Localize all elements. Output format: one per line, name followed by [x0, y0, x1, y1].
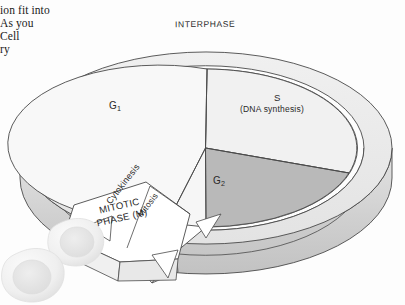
interphase-label: INTERPHASE [175, 19, 235, 29]
body-text-line-2: As you [0, 17, 34, 30]
body-text-line-3: Cell [0, 30, 20, 43]
g2-label-text: G [213, 175, 221, 186]
divider-g2-m [206, 148, 207, 227]
g1-label-text: G [109, 100, 117, 111]
s-phase-label: S [274, 92, 281, 103]
cell-cycle-svg [0, 0, 405, 305]
s-phase-description: (DNA synthesis) [240, 104, 304, 114]
daughter-cells [2, 218, 104, 302]
nucleus-upper [60, 227, 94, 257]
g2-label-subscript: 2 [221, 179, 225, 188]
body-text-line-4: ry [0, 43, 10, 56]
g2-label: G2 [213, 175, 225, 188]
g1-label-subscript: 1 [117, 104, 121, 113]
cycle-pie [8, 65, 358, 227]
body-text-line-1: ion fit into [0, 4, 50, 17]
cell-cycle-figure [0, 0, 405, 305]
nucleus-lower [13, 260, 51, 294]
g1-label: G1 [109, 100, 121, 113]
